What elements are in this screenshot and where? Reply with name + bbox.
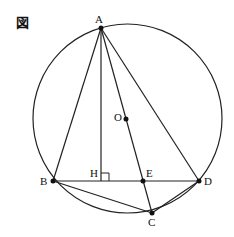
point-c-dot <box>150 211 155 216</box>
label-a: A <box>95 13 103 25</box>
point-d-dot <box>197 179 202 184</box>
segment-ad <box>101 28 199 181</box>
label-o: O <box>114 111 122 123</box>
label-d: D <box>204 175 212 187</box>
point-b-dot <box>51 179 56 184</box>
label-e: E <box>146 167 153 179</box>
segment-cd <box>152 181 199 213</box>
point-o-dot <box>124 117 129 122</box>
label-c: C <box>148 216 155 228</box>
label-h: H <box>90 167 98 179</box>
segment-ab <box>53 28 101 181</box>
segment-bc <box>53 181 152 213</box>
geometry-diagram: A B C D E H O <box>0 0 234 237</box>
point-e-dot <box>141 179 146 184</box>
right-angle-mark <box>101 173 109 181</box>
label-b: B <box>40 175 47 187</box>
point-a-dot <box>99 26 104 31</box>
